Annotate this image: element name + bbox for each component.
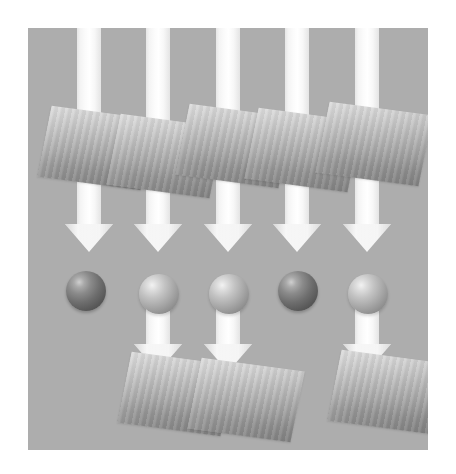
sphere-4 xyxy=(278,271,318,311)
diagram-panel xyxy=(28,28,428,450)
figure-canvas xyxy=(0,0,456,474)
sphere-3 xyxy=(209,274,249,314)
sphere-5 xyxy=(348,274,388,314)
slab-lower-3 xyxy=(327,350,428,434)
slab-lower-2 xyxy=(187,358,304,442)
arrow-head-icon xyxy=(273,224,321,252)
arrow-head-icon xyxy=(65,224,113,252)
sphere-1 xyxy=(66,271,106,311)
sphere-2 xyxy=(139,274,179,314)
arrow-down-col-1 xyxy=(65,28,113,450)
